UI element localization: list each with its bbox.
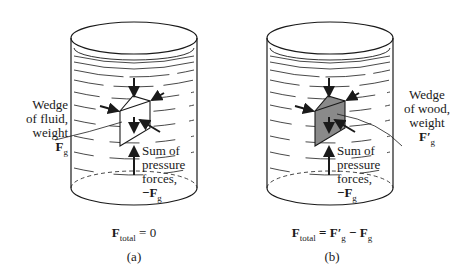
equation-b: Ftotal = F′g − Fg xyxy=(272,226,392,245)
wedge-label-b: Wedge of wood, weight F′g xyxy=(396,88,458,149)
equation-a: Ftotal = 0 xyxy=(94,226,174,245)
pressure-label-a: Sum of pressure forces, −Fg xyxy=(142,144,185,205)
leader-line-b xyxy=(337,114,402,146)
pressure-label-b: Sum of pressure forces, −Fg xyxy=(337,144,380,205)
wedge-label-a: Wedge of fluid, weight Fg xyxy=(18,98,68,159)
figure-canvas xyxy=(0,0,462,274)
caption-a: (a) xyxy=(114,250,154,264)
caption-b: (b) xyxy=(312,250,352,264)
